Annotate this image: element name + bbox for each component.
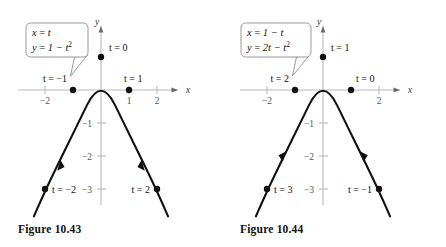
figure-pair: x y −2 1 2 −1 −2 −3 bbox=[0, 0, 446, 247]
callout-tail-2 bbox=[293, 55, 310, 76]
y-tick-label-neg1: −1 bbox=[82, 119, 92, 129]
callout-2-line-2: y = 2t − t2 bbox=[246, 40, 290, 53]
callout-2-1-rhs: 1 − t bbox=[263, 27, 285, 38]
point-label-t-3: t = 3 bbox=[274, 184, 292, 195]
x-tick-label-2-2: 2 bbox=[377, 96, 382, 106]
point-t-0 bbox=[98, 54, 104, 60]
point-t-0-2 bbox=[348, 87, 354, 93]
point-t-1 bbox=[126, 87, 132, 93]
x-axis-label-2: x bbox=[407, 85, 413, 95]
point-label-t-neg1-2: t = −1 bbox=[348, 184, 372, 195]
figure-caption-10-43: Figure 10.43 bbox=[18, 223, 82, 235]
callout-2-2-eq: = bbox=[252, 42, 263, 53]
point-t-neg2 bbox=[42, 186, 48, 192]
y-axis-arrowhead bbox=[99, 26, 104, 33]
y-tick-label-neg2: −2 bbox=[82, 152, 92, 162]
y-axis-label-2: y bbox=[316, 17, 322, 27]
callout-2-1-eq: = bbox=[252, 27, 263, 38]
callout-1-eq: = bbox=[37, 27, 48, 38]
callout-2-line-1: x = 1 − t bbox=[246, 27, 284, 38]
callout-line-2: y = 1 − t2 bbox=[31, 40, 72, 53]
callout-2-rhs: 1 − t bbox=[48, 42, 70, 53]
y-tick-label-neg3: −3 bbox=[82, 185, 92, 195]
point-label-t-neg1: t = −1 bbox=[43, 73, 67, 84]
point-t-2-2 bbox=[292, 87, 298, 93]
point-label-t-1-2: t = 1 bbox=[331, 42, 349, 53]
point-t-neg1-2 bbox=[376, 186, 382, 192]
callout-2-2-rhs: 2t − t bbox=[263, 42, 288, 53]
point-label-t-1: t = 1 bbox=[124, 73, 142, 84]
point-label-t-2-2: t = 2 bbox=[271, 73, 289, 84]
callout-2-2-exponent: 2 bbox=[286, 40, 290, 49]
x-tick-label-1: 1 bbox=[127, 96, 132, 106]
y-axis-arrowhead-2 bbox=[321, 26, 326, 33]
point-label-t-0: t = 0 bbox=[109, 42, 127, 53]
equation-callout: x = t y = 1 − t2 bbox=[26, 23, 88, 76]
x-tick-label-neg2-2: −2 bbox=[262, 96, 272, 106]
point-label-t-0-2: t = 0 bbox=[356, 73, 374, 84]
y-axis-label: y bbox=[94, 17, 100, 27]
point-label-t-2: t = 2 bbox=[132, 184, 150, 195]
y-tick-label-neg2-2: −2 bbox=[304, 152, 314, 162]
x-axis-label: x bbox=[185, 85, 191, 95]
callout-2-exponent: 2 bbox=[68, 40, 72, 49]
point-label-t-neg2: t = −2 bbox=[52, 184, 76, 195]
x-axis-arrowhead-2 bbox=[394, 88, 401, 93]
x-tick-label-2: 2 bbox=[155, 96, 160, 106]
callout-2-eq: = bbox=[37, 42, 48, 53]
point-t-3 bbox=[264, 186, 270, 192]
figure-panel-10-44: x y −2 2 −1 −2 −3 bbox=[223, 0, 446, 247]
plot-figure-10-44: x y −2 2 −1 −2 −3 bbox=[223, 0, 446, 247]
figure-caption-10-44: Figure 10.44 bbox=[240, 223, 304, 235]
plot-figure-10-43: x y −2 1 2 −1 −2 −3 bbox=[0, 0, 223, 247]
callout-tail bbox=[71, 55, 88, 76]
x-axis-arrowhead bbox=[172, 88, 179, 93]
point-t-neg1 bbox=[70, 87, 76, 93]
point-t-1-2 bbox=[320, 54, 326, 60]
figure-panel-10-43: x y −2 1 2 −1 −2 −3 bbox=[0, 0, 223, 247]
y-tick-label-neg1-2: −1 bbox=[304, 119, 314, 129]
callout-line-1: x = t bbox=[31, 27, 52, 38]
equation-callout-2: x = 1 − t y = 2t − t2 bbox=[241, 23, 311, 76]
y-tick-label-neg3-2: −3 bbox=[304, 185, 314, 195]
point-t-2 bbox=[154, 186, 160, 192]
direction-arrow-left-2 bbox=[279, 152, 286, 163]
x-tick-label-neg2: −2 bbox=[40, 96, 50, 106]
